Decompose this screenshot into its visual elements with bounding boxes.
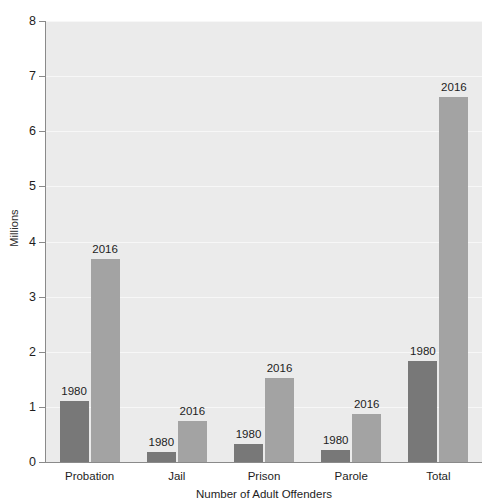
x-axis-category-label: Total	[426, 470, 450, 482]
bar-series-label: 1980	[61, 385, 87, 397]
bar	[408, 361, 437, 462]
bar-series-label: 1980	[236, 428, 262, 440]
x-axis-category-label: Prison	[248, 470, 281, 482]
gridline	[46, 76, 482, 77]
y-axis-tick-label: 4	[0, 235, 36, 249]
bar	[321, 450, 350, 462]
bar	[60, 401, 89, 462]
bar	[265, 378, 294, 462]
plot-area	[46, 21, 482, 462]
y-axis-tick-mark	[39, 21, 45, 22]
bar	[352, 414, 381, 462]
gridline	[46, 186, 482, 187]
gridline	[46, 131, 482, 132]
y-axis-tick-mark	[39, 131, 45, 132]
bar-series-label: 2016	[441, 81, 467, 93]
bar	[234, 444, 263, 462]
y-axis-tick-label: 7	[0, 69, 36, 83]
bar	[147, 452, 176, 462]
y-axis-tick-label: 6	[0, 124, 36, 138]
bar-series-label: 1980	[323, 434, 349, 446]
bar-series-label: 2016	[267, 362, 293, 374]
bar-series-label: 1980	[410, 345, 436, 357]
bar	[178, 421, 207, 462]
x-axis-category-label: Parole	[335, 470, 368, 482]
gridline	[46, 21, 482, 22]
bar-series-label: 2016	[92, 243, 118, 255]
bar	[91, 259, 120, 462]
bar-series-label: 2016	[180, 405, 206, 417]
y-axis-tick-mark	[39, 297, 45, 298]
y-axis-tick-label: 0	[0, 455, 36, 469]
bar-series-label: 2016	[354, 398, 380, 410]
y-axis-tick-label: 3	[0, 290, 36, 304]
bar-chart: Millions 012345678 198020161980201619802…	[0, 0, 491, 503]
y-axis-tick-label: 2	[0, 345, 36, 359]
bar	[439, 97, 468, 462]
y-axis-tick-mark	[39, 352, 45, 353]
x-axis-line	[45, 462, 482, 463]
y-axis-tick-mark	[39, 186, 45, 187]
y-axis-tick-mark	[39, 407, 45, 408]
y-axis-tick-label: 8	[0, 14, 36, 28]
bar-series-label: 1980	[149, 436, 175, 448]
y-axis-tick-label: 5	[0, 179, 36, 193]
y-axis-tick-mark	[39, 462, 45, 463]
y-axis-tick-label: 1	[0, 400, 36, 414]
x-axis-category-label: Jail	[168, 470, 185, 482]
x-axis-title: Number of Adult Offenders	[46, 488, 482, 500]
y-axis-tick-mark	[39, 242, 45, 243]
y-axis-tick-mark	[39, 76, 45, 77]
x-axis-category-label: Probation	[65, 470, 114, 482]
